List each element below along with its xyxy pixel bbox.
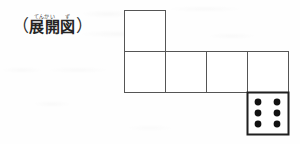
net-square-mid-1: [125, 52, 166, 93]
net-squares-group: [125, 11, 289, 135]
net-square-top: [125, 11, 166, 52]
net-square-mid-3: [207, 52, 248, 93]
die-pip-1: [255, 99, 262, 106]
cube-net-svg: [0, 0, 300, 144]
net-square-mid-4: [248, 52, 289, 93]
die-pip-3: [255, 110, 262, 117]
die-pip-6: [274, 121, 281, 128]
cube-net-diagram: [0, 0, 300, 144]
net-square-bottom: [248, 93, 289, 135]
net-square-mid-2: [166, 52, 207, 93]
die-pip-4: [274, 110, 281, 117]
die-pip-2: [274, 99, 281, 106]
die-pip-5: [255, 121, 262, 128]
worksheet-figure-screenshot: （ てんかい 展開 ず 図 ）: [0, 0, 300, 144]
